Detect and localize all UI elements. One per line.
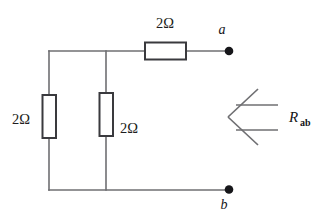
terminal-b-label: b bbox=[221, 197, 228, 212]
middle-resistor-label: 2Ω bbox=[120, 120, 138, 136]
left-resistor-label: 2Ω bbox=[12, 111, 30, 127]
rab-label: R ab bbox=[288, 109, 311, 128]
top-resistor-body bbox=[145, 43, 186, 60]
rab-arrow-icon bbox=[228, 89, 278, 145]
rab-symbol: R bbox=[288, 109, 298, 125]
arrow-lower-barb bbox=[228, 117, 258, 145]
resistor-group bbox=[43, 43, 187, 139]
terminal-a-label: a bbox=[219, 22, 226, 37]
wire-group bbox=[49, 51, 228, 190]
arrow-upper-barb bbox=[228, 89, 258, 117]
terminal-a-dot bbox=[225, 47, 234, 56]
terminal-b-dot bbox=[225, 185, 234, 194]
left-resistor-body bbox=[43, 95, 57, 138]
top-resistor-label: 2Ω bbox=[156, 15, 174, 31]
middle-resistor-body bbox=[100, 93, 114, 136]
circuit-diagram: 2Ω 2Ω 2Ω a b R ab bbox=[0, 0, 331, 223]
rab-subscript: ab bbox=[300, 117, 311, 128]
